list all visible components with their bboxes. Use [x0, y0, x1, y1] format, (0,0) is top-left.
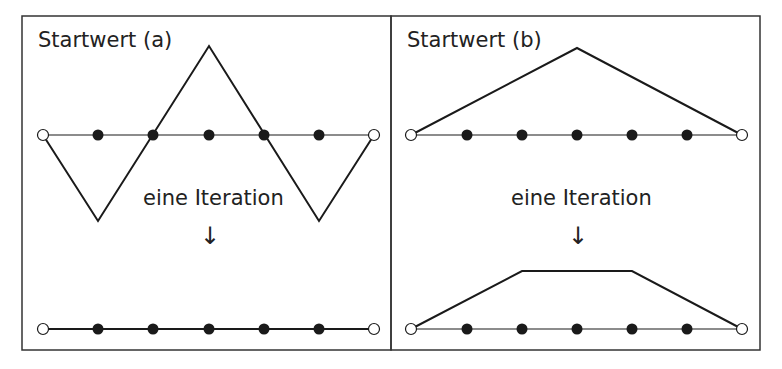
panel-b-initial: [406, 48, 748, 141]
panel-b-frame: [391, 16, 760, 350]
panel-b-caption: eine Iteration: [511, 186, 652, 210]
diagram-canvas: [0, 0, 782, 369]
panel-a-result: [38, 324, 380, 335]
panel-a-frame: [22, 16, 391, 350]
panel-b-result: [406, 271, 748, 335]
down-arrow-icon: ↓: [200, 222, 220, 250]
down-arrow-icon: ↓: [568, 222, 588, 250]
panel-b-title: Startwert (b): [407, 28, 542, 52]
panel-a-title: Startwert (a): [38, 28, 172, 52]
panel-a-caption: eine Iteration: [143, 186, 284, 210]
